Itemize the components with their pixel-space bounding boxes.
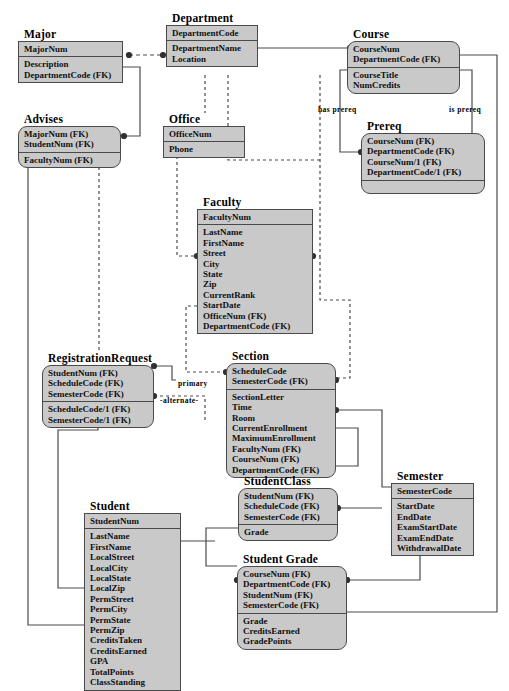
attribute-row: Location [167, 54, 257, 64]
primary-key-section-studentgrade: CourseNum (FK)DepartmentCode (FK)Student… [238, 567, 346, 614]
entity-title-studentgrade: Student Grade [243, 553, 347, 565]
entity-title-course: Course [353, 28, 460, 40]
attribute-row: Grade [239, 527, 337, 537]
attribute-row: MajorNum (FK) [19, 129, 120, 139]
entity-studentclass[interactable]: StudentClassStudentNum (FK)ScheduleCode … [238, 475, 338, 541]
primary-key-section-advises: MajorNum (FK)StudentNum (FK) [19, 127, 120, 153]
relationship-label-alternate: -alternate- [160, 396, 199, 405]
attribute-row: FacultyNum [198, 212, 312, 222]
attribute-row: ExamStartDate [392, 522, 473, 532]
attribute-section-section: SectionLetterTimeRoomCurrentEnrollmentMa… [227, 390, 335, 477]
attribute-row: FirstName [198, 238, 312, 248]
attribute-section-advises: FacultyNum (FK) [19, 153, 120, 167]
attribute-row: ScheduleCode (FK) [239, 501, 337, 511]
attribute-row: GradePoints [238, 636, 346, 646]
attribute-section-registrationrequest: ScheduleCode/1 (FK)SemesterCode/1 (FK) [43, 402, 153, 427]
attribute-row: Zip [198, 279, 312, 289]
entity-box-registrationrequest: StudentNum (FK)ScheduleCode (FK)Semester… [42, 365, 154, 428]
entity-title-major: Major [24, 28, 123, 40]
attribute-row: City [198, 259, 312, 269]
attribute-row: FacultyNum (FK) [19, 155, 120, 165]
attribute-row: PermState [85, 615, 180, 625]
entity-title-department: Department [172, 12, 258, 24]
attribute-row: CurrentRank [198, 290, 312, 300]
relationship-label-has-prereq: has prereq [318, 105, 357, 114]
attribute-row: SemesterCode/1 (FK) [43, 415, 153, 425]
attribute-row: WithdrawalDate [392, 543, 473, 553]
entity-course[interactable]: CourseCourseNumDepartmentCode (FK)Course… [347, 28, 460, 94]
attribute-row: DepartmentCode/1 (FK) [362, 167, 484, 177]
primary-key-section-faculty: FacultyNum [198, 210, 312, 225]
entity-student[interactable]: StudentStudentNumLastNameFirstNameLocalS… [84, 500, 181, 691]
attribute-row: StudentNum (FK) [43, 368, 153, 378]
attribute-row: StudentNum [85, 516, 180, 526]
attribute-section-studentgrade: GradeCreditsEarnedGradePoints [238, 614, 346, 649]
attribute-row: SemesterCode (FK) [238, 600, 346, 610]
entity-office[interactable]: OfficeOfficeNumPhone [163, 113, 245, 158]
attribute-row: OfficeNum (FK) [198, 311, 312, 321]
primary-key-section-studentclass: StudentNum (FK)ScheduleCode (FK)Semester… [239, 489, 337, 525]
entity-faculty[interactable]: FacultyFacultyNumLastNameFirstNameStreet… [197, 196, 313, 334]
attribute-row: State [198, 269, 312, 279]
attribute-section-major: DescriptionDepartmentCode (FK) [19, 57, 122, 82]
attribute-row: CourseNum (FK) [227, 454, 335, 464]
dot-major-right [126, 52, 132, 58]
attribute-row: SemesterCode [392, 486, 473, 496]
attribute-row: ScheduleCode (FK) [43, 378, 153, 388]
primary-key-section-office: OfficeNum [164, 127, 244, 142]
entity-title-registrationrequest: RegistrationRequest [48, 352, 154, 364]
entity-department[interactable]: DepartmentDepartmentCodeDepartmentNameLo… [166, 12, 258, 67]
attribute-row: DepartmentCode (FK) [362, 146, 484, 156]
attribute-row: EndDate [392, 512, 473, 522]
wire-office-faculty [177, 156, 197, 256]
primary-key-section-major: MajorNum [19, 42, 122, 57]
attribute-row: CurrentEnrollment [227, 423, 335, 433]
primary-key-section-student: StudentNum [85, 514, 180, 529]
relationship-label-primary: primary [178, 379, 208, 388]
attribute-section-course: CourseTitleNumCredits [348, 68, 459, 93]
wire-major-advises [123, 67, 140, 136]
attribute-row: FacultyNum (FK) [227, 444, 335, 454]
entity-box-studentgrade: CourseNum (FK)DepartmentCode (FK)Student… [237, 566, 347, 650]
attribute-row: PermCity [85, 604, 180, 614]
entity-semester[interactable]: SemesterSemesterCodeStartDateEndDateExam… [391, 470, 474, 556]
entity-box-prereq: CourseNum (FK)DepartmentCode (FK)CourseN… [361, 133, 485, 194]
attribute-row: DepartmentCode (FK) [198, 321, 312, 331]
entity-title-office: Office [169, 113, 245, 125]
entity-box-faculty: FacultyNumLastNameFirstNameStreetCitySta… [197, 209, 313, 334]
attribute-row: LocalCity [85, 563, 180, 573]
entity-advises[interactable]: AdvisesMajorNum (FK)StudentNum (FK)Facul… [18, 113, 121, 168]
entity-title-section: Section [232, 350, 336, 362]
primary-key-section-registrationrequest: StudentNum (FK)ScheduleCode (FK)Semester… [43, 366, 153, 402]
attribute-row: DepartmentCode (FK) [19, 70, 122, 80]
entity-section[interactable]: SectionScheduleCodeSemesterCode (FK)Sect… [226, 350, 336, 478]
attribute-section-empty [362, 181, 484, 193]
attribute-row: StudentNum (FK) [239, 491, 337, 501]
attribute-row: Time [227, 402, 335, 412]
attribute-row: CourseNum (FK) [362, 136, 484, 146]
attribute-row: CourseNum/1 (FK) [362, 157, 484, 167]
attribute-row: CreditsEarned [85, 646, 180, 656]
attribute-row: DepartmentCode (FK) [348, 54, 459, 64]
attribute-row: CreditsEarned [238, 626, 346, 636]
entity-box-office: OfficeNumPhone [163, 126, 245, 158]
attribute-row: MajorNum [19, 44, 122, 54]
entity-box-semester: SemesterCodeStartDateEndDateExamStartDat… [391, 483, 474, 556]
entity-major[interactable]: MajorMajorNumDescriptionDepartmentCode (… [18, 28, 123, 83]
attribute-row: OfficeNum [164, 129, 244, 139]
attribute-row: PermZip [85, 625, 180, 635]
attribute-row: CourseNum [348, 44, 459, 54]
attribute-section-department: DepartmentNameLocation [167, 41, 257, 66]
primary-key-section-department: DepartmentCode [167, 26, 257, 41]
attribute-section-faculty: LastNameFirstNameStreetCityStateZipCurre… [198, 225, 312, 333]
attribute-row: SemesterCode (FK) [239, 512, 337, 522]
attribute-row: CourseTitle [348, 70, 459, 80]
attribute-row: ExamEndDate [392, 533, 473, 543]
entity-registrationrequest[interactable]: RegistrationRequestStudentNum (FK)Schedu… [42, 352, 154, 428]
entity-title-student: Student [90, 500, 181, 512]
entity-prereq[interactable]: PrereqCourseNum (FK)DepartmentCode (FK)C… [361, 120, 485, 194]
attribute-row: NumCredits [348, 80, 459, 90]
entity-box-department: DepartmentCodeDepartmentNameLocation [166, 25, 258, 67]
entity-studentgrade[interactable]: Student GradeCourseNum (FK)DepartmentCod… [237, 553, 347, 650]
